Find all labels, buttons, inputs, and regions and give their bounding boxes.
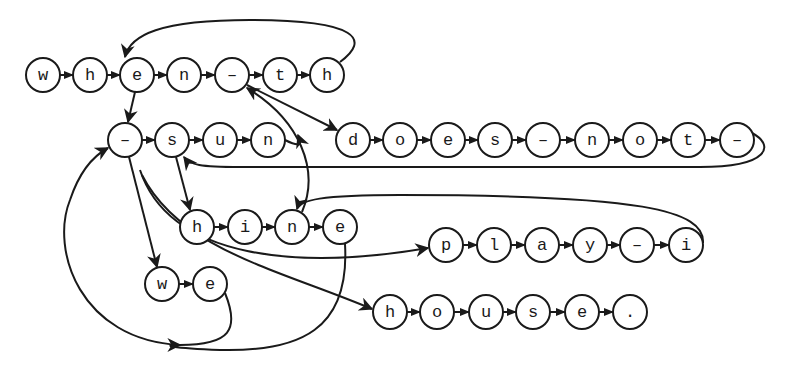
letter-node: – bbox=[620, 228, 654, 262]
letter-node: w bbox=[145, 267, 179, 301]
edge-e-to-dash-sun bbox=[128, 92, 135, 122]
letter-node: h bbox=[373, 295, 407, 329]
node-label: e bbox=[335, 218, 345, 237]
edge-dash-sun-to-we bbox=[129, 157, 157, 267]
node-label: e bbox=[205, 275, 215, 294]
letter-node: h bbox=[310, 58, 344, 92]
letter-node: e bbox=[565, 295, 599, 329]
node-label: e bbox=[443, 131, 453, 150]
letter-node: i bbox=[669, 228, 703, 262]
edge-th-h-to-e bbox=[125, 20, 355, 62]
letter-node: d bbox=[336, 123, 370, 157]
node-label: a bbox=[537, 236, 547, 255]
node-label: – bbox=[538, 131, 548, 150]
chain-does-not: does–not– bbox=[336, 123, 754, 157]
node-label: d bbox=[348, 131, 358, 150]
node-label: y bbox=[585, 236, 595, 255]
letter-node: n bbox=[167, 58, 201, 92]
letter-node: n bbox=[251, 123, 285, 157]
letter-node: – bbox=[108, 123, 142, 157]
letter-node: e bbox=[193, 267, 227, 301]
letter-node: – bbox=[526, 123, 560, 157]
letter-node: h bbox=[180, 210, 214, 244]
node-label: . bbox=[625, 303, 635, 322]
letter-node: . bbox=[613, 295, 647, 329]
node-label: l bbox=[489, 236, 499, 255]
node-label: h bbox=[322, 66, 332, 85]
letter-node: n bbox=[275, 210, 309, 244]
node-label: – bbox=[120, 131, 130, 150]
letter-node: s bbox=[155, 123, 189, 157]
node-label: o bbox=[432, 303, 442, 322]
letter-node: p bbox=[429, 228, 463, 262]
edge-s-to-hine-h bbox=[176, 157, 190, 210]
node-label: u bbox=[481, 303, 491, 322]
node-label: – bbox=[732, 131, 742, 150]
node-label: i bbox=[681, 236, 691, 255]
node-label: s bbox=[490, 131, 500, 150]
letter-node: a bbox=[525, 228, 559, 262]
letter-node: o bbox=[420, 295, 454, 329]
edge-we-e-to-dash bbox=[64, 148, 231, 345]
node-label: w bbox=[38, 66, 49, 85]
node-label: t bbox=[275, 66, 285, 85]
letter-node: i bbox=[228, 210, 262, 244]
node-label: – bbox=[227, 66, 237, 85]
node-label: n bbox=[263, 131, 273, 150]
node-label: – bbox=[632, 236, 642, 255]
letter-node: o bbox=[623, 123, 657, 157]
letter-node: – bbox=[215, 58, 249, 92]
node-label: s bbox=[167, 131, 177, 150]
letter-node: u bbox=[469, 295, 503, 329]
letter-node: e bbox=[323, 210, 357, 244]
node-label: h bbox=[385, 303, 395, 322]
node-label: n bbox=[587, 131, 597, 150]
node-label: u bbox=[215, 131, 225, 150]
node-label: n bbox=[179, 66, 189, 85]
node-label: o bbox=[395, 131, 405, 150]
letter-node: h bbox=[73, 58, 107, 92]
letter-node: e bbox=[431, 123, 465, 157]
letter-node: – bbox=[720, 123, 754, 157]
letter-node: u bbox=[203, 123, 237, 157]
node-label: s bbox=[528, 303, 538, 322]
node-label: n bbox=[287, 218, 297, 237]
node-label: h bbox=[85, 66, 95, 85]
letter-node: w bbox=[26, 58, 60, 92]
node-label: w bbox=[157, 275, 168, 294]
node-label: e bbox=[132, 66, 142, 85]
node-label: h bbox=[192, 218, 202, 237]
letter-node: n bbox=[575, 123, 609, 157]
letter-node: s bbox=[478, 123, 512, 157]
edge-hine-e-to-dash bbox=[170, 244, 345, 350]
node-label: t bbox=[683, 131, 693, 150]
nodes-layer: when–th–sundoes–not–hineplay–iwehouse. bbox=[26, 58, 754, 329]
letter-network-diagram: when–th–sundoes–not–hineplay–iwehouse. bbox=[0, 0, 799, 372]
letter-node: o bbox=[383, 123, 417, 157]
letter-node: s bbox=[516, 295, 550, 329]
letter-node: l bbox=[477, 228, 511, 262]
chain-when-th: when–th bbox=[26, 58, 344, 92]
letter-node: t bbox=[671, 123, 705, 157]
node-label: o bbox=[635, 131, 645, 150]
node-label: p bbox=[441, 236, 451, 255]
letter-node: t bbox=[263, 58, 297, 92]
letter-node: y bbox=[573, 228, 607, 262]
node-label: e bbox=[577, 303, 587, 322]
node-label: i bbox=[240, 218, 250, 237]
letter-node: e bbox=[120, 58, 154, 92]
